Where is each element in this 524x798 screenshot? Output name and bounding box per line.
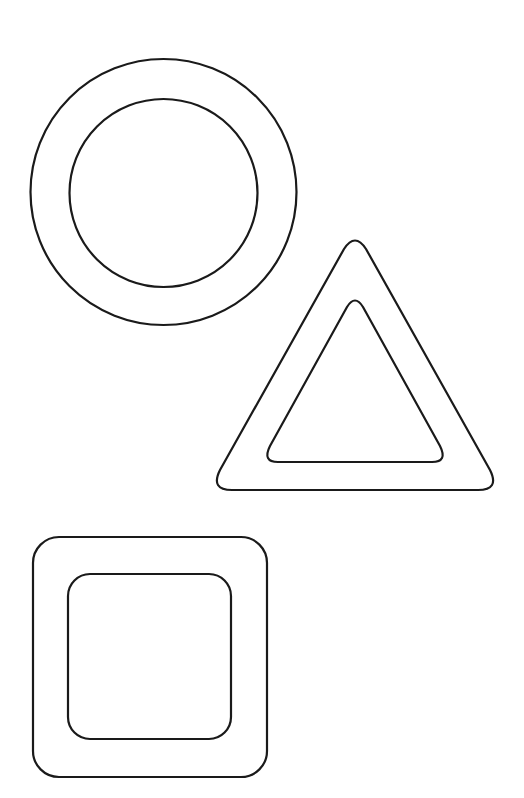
square-inner xyxy=(68,574,231,739)
ring-shape xyxy=(31,59,297,325)
square-shape xyxy=(33,537,267,777)
ring-inner-circle xyxy=(70,99,258,287)
triangle-inner xyxy=(267,301,442,463)
drawing-canvas xyxy=(0,0,524,798)
triangle-shape xyxy=(217,241,493,491)
triangle-outer xyxy=(217,241,493,491)
